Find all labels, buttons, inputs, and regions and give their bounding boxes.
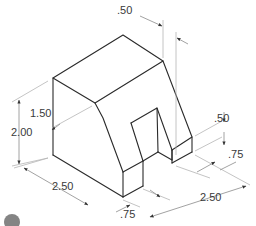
dim-height-upper: 1.50 [30,107,51,119]
dim-right-step: .75 [228,148,243,160]
isometric-drawing: .50 1.50 2.00 2.50 .75 .50 .75 2.50 [0,0,256,226]
dim-depth-left: 2.50 [52,180,73,192]
dim-top-offset: .50 [117,4,132,16]
dimension-labels: .50 1.50 2.00 2.50 .75 .50 .75 2.50 [11,4,243,220]
dim-notch-width: .75 [120,208,135,220]
dim-notch-height: .50 [214,112,229,124]
dim-height-total: 2.00 [11,126,32,138]
page-corner-marker [4,214,20,226]
dim-width-right: 2.50 [200,191,221,203]
